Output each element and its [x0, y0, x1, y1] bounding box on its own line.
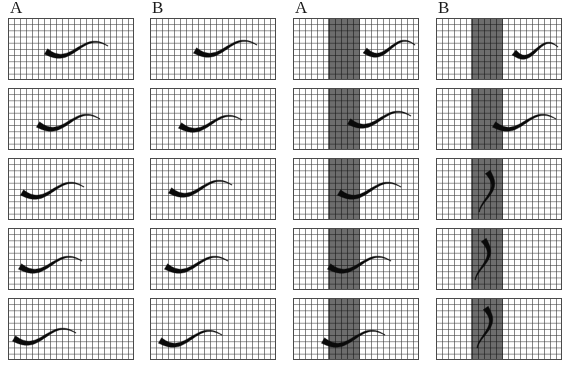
panel-col-3-frame-3: [293, 158, 419, 220]
panel-col-2-frame-4: [150, 228, 276, 290]
worm-body: [293, 158, 419, 220]
panel-col-1-frame-5: [8, 298, 134, 360]
panel-col-1-frame-2: [8, 88, 134, 150]
panel-col-3-frame-5: [293, 298, 419, 360]
worm-body: [293, 298, 419, 360]
worm-body: [8, 158, 134, 220]
panel-col-4-frame-5: [436, 298, 562, 360]
worm-body: [150, 158, 276, 220]
panel-column-col-2: B: [150, 0, 278, 373]
panel-col-1-frame-4: [8, 228, 134, 290]
worm-body: [8, 18, 134, 80]
worm-body: [8, 298, 134, 360]
worm-body: [436, 298, 562, 360]
column-label: A: [10, 0, 23, 16]
worm-body: [8, 88, 134, 150]
worm-body: [436, 158, 562, 220]
panel-col-4-frame-2: [436, 88, 562, 150]
panel-col-2-frame-3: [150, 158, 276, 220]
panel-col-3-frame-2: [293, 88, 419, 150]
worm-body: [293, 228, 419, 290]
panel-col-1-frame-3: [8, 158, 134, 220]
panel-col-3-frame-4: [293, 228, 419, 290]
column-label: A: [295, 0, 308, 16]
panel-col-4-frame-3: [436, 158, 562, 220]
panel-col-3-frame-1: [293, 18, 419, 80]
worm-body: [150, 298, 276, 360]
panel-col-2-frame-2: [150, 88, 276, 150]
panel-column-col-1: A: [8, 0, 136, 373]
panel-column-col-4: B: [436, 0, 564, 373]
figure-root: ABAB: [0, 0, 570, 373]
panel-column-col-3: A: [293, 0, 421, 373]
worm-body: [8, 228, 134, 290]
panel-col-2-frame-1: [150, 18, 276, 80]
worm-body: [150, 18, 276, 80]
column-label: B: [152, 0, 164, 16]
worm-body: [150, 88, 276, 150]
worm-body: [293, 18, 419, 80]
column-label: B: [438, 0, 450, 16]
worm-body: [436, 88, 562, 150]
panel-col-2-frame-5: [150, 298, 276, 360]
panel-col-1-frame-1: [8, 18, 134, 80]
worm-body: [436, 228, 562, 290]
worm-body: [436, 18, 562, 80]
worm-body: [293, 88, 419, 150]
worm-body: [150, 228, 276, 290]
panel-col-4-frame-1: [436, 18, 562, 80]
panel-col-4-frame-4: [436, 228, 562, 290]
